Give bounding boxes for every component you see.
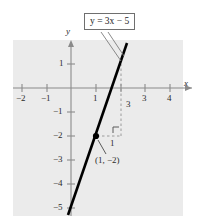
x-tick-label-neg1: −1 [41,94,51,103]
y-tick-label-neg5: −5 [53,203,63,212]
x-tick-label-4: 4 [167,94,172,103]
x-axis-label: x [184,79,188,88]
figure-canvas: y = 3x − 5 x y −2 −1 1 3 4 1 −1 −2 −3 −4… [0,0,209,222]
rise-annotation-label: 3 [126,100,131,109]
y-axis-label: y [66,27,70,36]
y-tick-label-neg1: −1 [53,107,63,116]
equation-text: y = 3x − 5 [90,16,129,26]
point-coordinate-label: (1, −2) [95,156,120,165]
x-tick-label-3: 3 [142,94,147,103]
x-tick-label-1: 1 [93,94,98,103]
run-annotation-label: 1 [110,139,115,148]
y-tick-label-neg4: −4 [53,179,63,188]
x-tick-label-neg2: −2 [16,94,26,103]
plotted-point [93,133,99,139]
equation-callout-box: y = 3x − 5 [84,13,135,30]
graph-svg [0,0,209,222]
y-tick-label-1: 1 [59,59,64,68]
y-tick-label-neg2: −2 [53,131,63,140]
y-tick-label-neg3: −3 [53,155,63,164]
